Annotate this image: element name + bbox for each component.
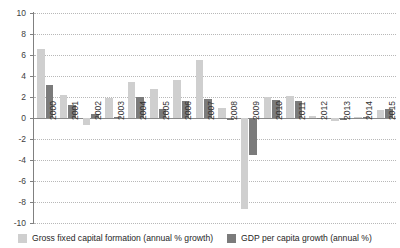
- x-axis-tick-label: 2002: [94, 101, 103, 120]
- x-axis-tick-label: 2012: [320, 101, 329, 120]
- chart-legend: Gross fixed capital formation (annual % …: [0, 228, 400, 248]
- y-axis-tick-label: 0: [21, 114, 26, 123]
- bar: [128, 82, 136, 118]
- x-axis-tick-label: 2000: [49, 101, 58, 120]
- bar: [105, 98, 113, 118]
- y-axis-tick-label: -2: [18, 135, 26, 144]
- bar-chart: 1086420-2-4-6-8-10 200020012002200320042…: [0, 0, 400, 248]
- x-axis-tick-label: 2011: [298, 102, 307, 120]
- y-axis-tick-label: -8: [18, 198, 26, 207]
- bar: [173, 80, 181, 118]
- bar: [264, 97, 272, 118]
- x-axis-tick-label: 2010: [275, 101, 284, 120]
- y-axis-tick-label: 6: [21, 51, 26, 60]
- x-axis-tick-label: 2003: [117, 101, 126, 120]
- x-axis-tick-label: 2001: [71, 101, 80, 120]
- x-axis-tick-label: 2004: [139, 101, 148, 120]
- x-axis-tick-label: 2007: [207, 101, 216, 120]
- y-axis-tick-label: 8: [21, 30, 26, 39]
- y-axis-tick-label: 10: [17, 9, 26, 18]
- legend-item-gdp-per-capita-growth: GDP per capita growth (annual %): [227, 234, 372, 243]
- bar: [196, 60, 204, 118]
- x-axis-tick-label: 2006: [184, 101, 193, 120]
- x-axis-tick-label: 2014: [365, 101, 374, 120]
- y-axis-tick-label: 4: [21, 72, 26, 81]
- x-axis-tick-label: 2008: [230, 101, 239, 120]
- legend-swatch-icon: [227, 234, 236, 243]
- legend-label: GDP per capita growth (annual %): [241, 234, 372, 243]
- y-axis-tick-label: 2: [21, 93, 26, 102]
- y-axis-tick-label: -10: [14, 219, 26, 228]
- bar: [60, 95, 68, 118]
- x-axis-tick-label: 2013: [343, 101, 352, 120]
- x-axis-tick-label: 2005: [162, 101, 171, 120]
- bar: [218, 108, 226, 119]
- gridline: [34, 223, 396, 224]
- bar: [286, 96, 294, 118]
- y-axis-labels: 1086420-2-4-6-8-10: [0, 13, 30, 223]
- legend-swatch-icon: [18, 234, 27, 243]
- y-axis-tick-mark: [30, 223, 34, 224]
- x-axis-labels: 2000200120022003200420052006200720082009…: [34, 118, 396, 178]
- legend-item-gross-fixed-capital-formation: Gross fixed capital formation (annual % …: [18, 234, 213, 243]
- bar: [150, 89, 158, 118]
- x-axis-tick-label: 2009: [252, 101, 261, 120]
- y-axis-tick-label: -6: [18, 177, 26, 186]
- y-axis-tick-label: -4: [18, 156, 26, 165]
- bar: [37, 49, 45, 118]
- x-axis-tick-label: 2015: [388, 101, 397, 120]
- bar: [377, 110, 385, 118]
- legend-label: Gross fixed capital formation (annual % …: [32, 234, 213, 243]
